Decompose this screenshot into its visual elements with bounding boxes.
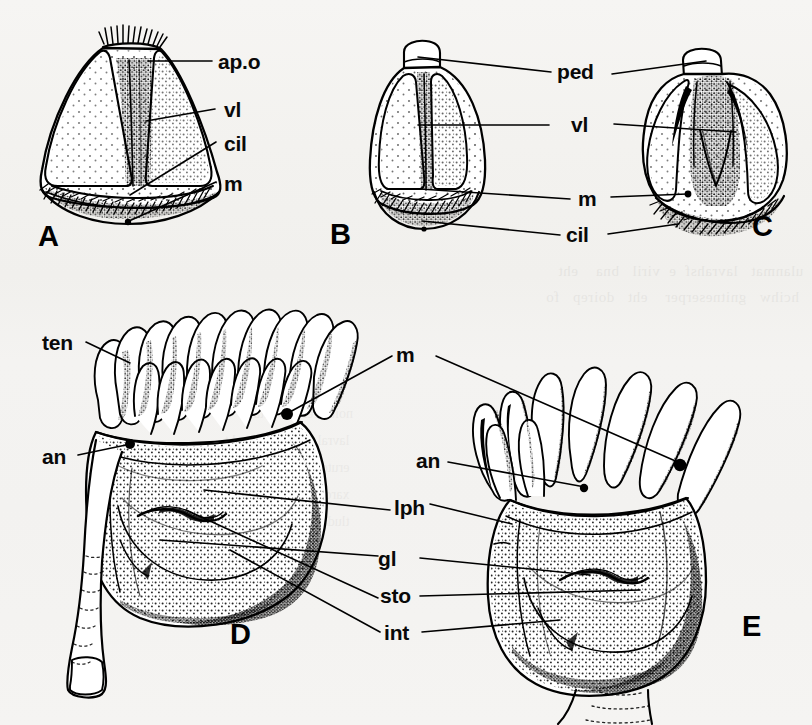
label-m-de: m	[396, 344, 414, 365]
panel-e-drawing	[473, 368, 740, 724]
label-ap-o: ap.o	[218, 51, 260, 72]
label-vl-a: vl	[224, 99, 241, 120]
label-an-d: an	[42, 446, 66, 467]
panel-d-anus-point	[125, 439, 135, 449]
label-m-bc: m	[578, 188, 596, 209]
label-an-e: an	[416, 450, 440, 471]
panel-b-mouth-point	[421, 226, 426, 231]
label-m-a: m	[224, 173, 242, 194]
label-ten-d: ten	[42, 332, 73, 353]
panel-letter-b: B	[330, 220, 351, 249]
label-cil-bc: cil	[566, 224, 589, 245]
panel-d-tentacles	[95, 310, 358, 434]
label-int-de: int	[384, 622, 409, 643]
panel-letter-c: C	[752, 212, 773, 241]
panel-e-anus-point	[580, 484, 588, 492]
label-lph-de: lph	[394, 497, 425, 518]
label-vl-bc: vl	[571, 114, 588, 135]
panel-letter-d: D	[230, 620, 251, 649]
panel-letter-e: E	[742, 612, 761, 641]
panel-b-drawing	[370, 41, 485, 232]
label-cil-a: cil	[224, 133, 247, 154]
label-sto-de: sto	[380, 585, 411, 606]
figure-plate: ulanmat lavrahsf e viril bna eht hcihw g…	[0, 0, 812, 725]
label-gl-de: gl	[378, 548, 396, 569]
panel-d-mouth-point	[281, 408, 293, 420]
panel-d-drawing	[67, 310, 357, 698]
panel-c-drawing	[643, 49, 787, 236]
label-ped-bc: ped	[557, 61, 594, 82]
panel-letter-a: A	[38, 222, 59, 251]
